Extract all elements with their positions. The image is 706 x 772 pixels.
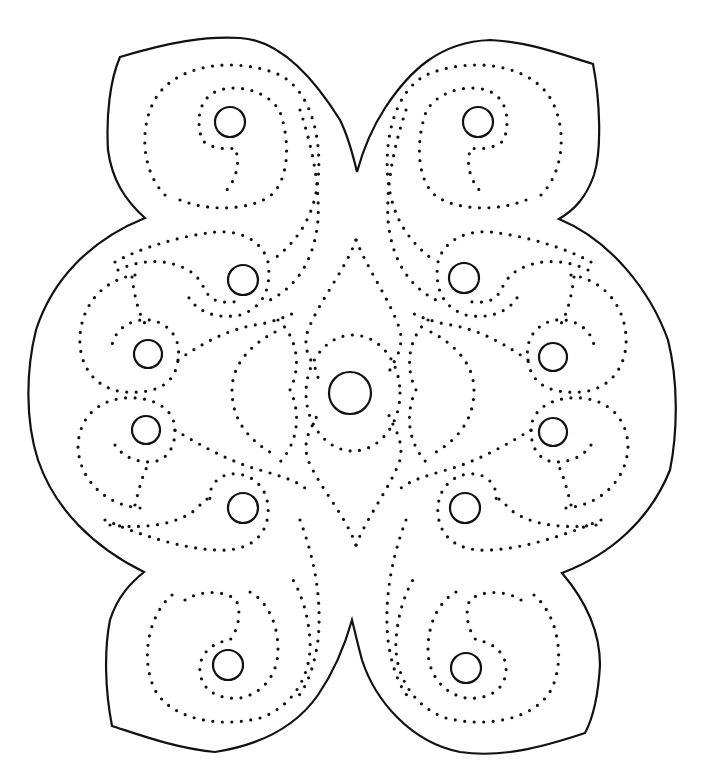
circle [215,107,245,137]
dotted-spiral [145,65,319,262]
circle [134,340,162,368]
dotted-loop [527,275,626,392]
dotted-diamond [306,410,356,545]
dotted-arc [409,320,428,462]
circle [132,416,160,444]
dotted-spiral [270,110,318,300]
dotted-loop [78,398,175,508]
dotted-loop [135,430,305,505]
dotted-loop [463,262,588,303]
circles [132,107,567,683]
circle [228,265,258,295]
dotted-spiral [387,520,411,700]
dotted-spiral [419,88,526,208]
dotted-arc [232,332,275,455]
dotted-paths-left [78,65,319,722]
dotted-loop [531,398,628,508]
dotted-loop [491,497,596,526]
circle [228,493,258,523]
dotted-spiral [428,592,521,698]
dotted-spiral [185,592,278,698]
dotted-diamond [306,240,356,378]
circle [451,653,481,683]
circle [539,343,567,371]
circle [463,107,493,137]
dotted-spiral [388,110,436,300]
dotted-loop [110,497,215,526]
dotted-spiral [396,575,559,722]
circle [539,418,567,446]
pattern-artwork [0,0,706,772]
circle [450,493,480,523]
dotted-arc [278,320,297,462]
center-circle [329,372,371,414]
dotted-arc [431,332,474,455]
dotted-diamond [356,240,401,378]
dotted-spiral [387,65,561,262]
dotted-spiral [180,88,287,208]
dotted-spiral [147,575,310,722]
dotted-diamond [356,410,401,545]
circle [449,263,479,293]
dotted-spiral [295,520,319,700]
dotted-loop [80,275,179,392]
dotted-loop [118,262,243,303]
circle [213,650,243,680]
